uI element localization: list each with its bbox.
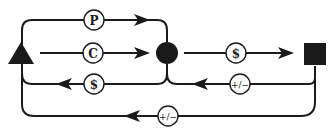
flow-diagram: P C $ $ +/− +/− — [0, 0, 334, 132]
svg-text:$: $ — [90, 78, 98, 92]
node-circle — [156, 42, 178, 64]
svg-text:P: P — [89, 14, 98, 28]
svg-text:+/−: +/− — [231, 80, 249, 90]
svg-text:$: $ — [232, 47, 240, 61]
label-money-return: $ — [84, 74, 104, 94]
svg-text:+/−: +/− — [159, 112, 177, 122]
svg-text:C: C — [88, 47, 98, 61]
label-p: P — [84, 10, 104, 30]
label-money-flow: $ — [226, 43, 246, 63]
node-square — [304, 43, 326, 65]
label-adjust-return-2: +/− — [158, 106, 178, 126]
label-adjust-return-1: +/− — [230, 74, 250, 94]
node-triangle — [8, 42, 34, 64]
label-c: C — [83, 43, 103, 63]
